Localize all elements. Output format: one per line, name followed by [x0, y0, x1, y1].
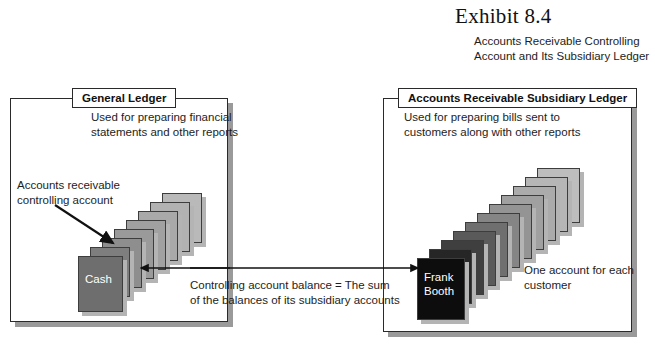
general-ledger-description: Used for preparing financial statements … [91, 110, 251, 140]
one-account-per-customer-annotation: One account for each customer [524, 263, 634, 293]
exhibit-title: Exhibit 8.4 [455, 4, 651, 29]
subsidiary-ledger-tab-label: Accounts Receivable Subsidiary Ledger [398, 88, 637, 108]
caption-line-2: of the balances of its subsidiary accoun… [190, 293, 405, 308]
subsidiary-ledger-description: Used for preparing bills sent to custome… [404, 110, 614, 140]
exhibit-heading: Exhibit 8.4 Accounts Receivable Controll… [455, 4, 651, 63]
ledger-card-front-label: Cash [85, 272, 112, 286]
caption-line-1: Controlling account balance = The sum [190, 278, 405, 293]
ledger-card-label-line: Cash [85, 272, 112, 286]
ledger-card-label-line: Booth [424, 284, 454, 298]
controlling-account-annotation: Accounts receivable controlling account [17, 178, 157, 208]
ledger-card-label-line: Frank [424, 270, 454, 284]
controlling-account-balance-caption: Controlling account balance = The sum of… [190, 278, 405, 308]
exhibit-figure: Exhibit 8.4 Accounts Receivable Controll… [0, 0, 655, 350]
exhibit-subtitle: Accounts Receivable Controlling Account … [474, 34, 651, 63]
ledger-card-front-label: FrankBooth [424, 270, 454, 298]
general-ledger-tab-label: General Ledger [72, 88, 176, 108]
